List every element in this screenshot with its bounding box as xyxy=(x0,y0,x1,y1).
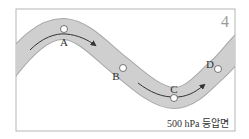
label-b: B xyxy=(112,70,119,82)
point-c xyxy=(171,95,178,102)
jet-stream-diagram: A B C D 4 500 hPa 등압면 xyxy=(0,0,249,139)
corner-number: 4 xyxy=(221,13,229,30)
point-b xyxy=(120,65,127,72)
label-d: D xyxy=(206,58,214,70)
caption-500hpa: 500 hPa 등압면 xyxy=(167,117,229,129)
point-a xyxy=(61,26,68,33)
point-d xyxy=(215,66,222,73)
label-a: A xyxy=(60,36,68,48)
label-c: C xyxy=(170,83,177,95)
